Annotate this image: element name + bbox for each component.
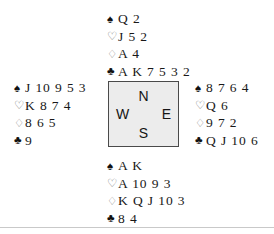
- east-hearts-line: ♡ Q 6: [195, 97, 259, 115]
- spade-icon: ♠: [195, 80, 206, 98]
- spade-icon: ♠: [107, 11, 118, 29]
- west-spades-cards: J 10 9 5 3: [25, 79, 87, 97]
- south-spades-cards: A K: [118, 157, 143, 175]
- heart-icon: ♡: [107, 28, 118, 46]
- south-hearts-line: ♡ A 10 9 3: [107, 175, 186, 193]
- east-diamonds-line: ♢ 9 7 2: [195, 114, 259, 132]
- south-hearts-cards: A 10 9 3: [118, 175, 171, 193]
- diamond-icon: ♢: [14, 115, 25, 133]
- north-hearts-line: ♡ J 5 2: [107, 28, 191, 46]
- club-icon: ♣: [195, 132, 206, 150]
- hand-south: ♠ A K ♡ A 10 9 3 ♢ K Q J 10 3 ♣ 8 4: [107, 157, 186, 227]
- heart-icon: ♡: [14, 97, 25, 115]
- club-icon: ♣: [107, 210, 118, 228]
- bridge-deal-diagram: ♠ Q 2 ♡ J 5 2 ♢ A 4 ♣ A K 7 5 3 2 ♠ J 10…: [0, 0, 274, 234]
- compass-label-west: W: [116, 106, 129, 122]
- north-clubs-line: ♣ A K 7 5 3 2: [107, 63, 191, 81]
- compass-label-south: S: [139, 125, 148, 141]
- hand-west: ♠ J 10 9 5 3 ♡ K 8 7 4 ♢ 8 6 5 ♣ 9: [14, 79, 87, 149]
- compass-box: N W E S: [108, 81, 179, 147]
- west-hearts-line: ♡ K 8 7 4: [14, 97, 87, 115]
- south-diamonds-cards: K Q J 10 3: [118, 192, 186, 210]
- west-hearts-cards: K 8 7 4: [25, 97, 71, 115]
- diamond-icon: ♢: [107, 46, 118, 64]
- bottom-divider: [0, 227, 274, 228]
- hand-north: ♠ Q 2 ♡ J 5 2 ♢ A 4 ♣ A K 7 5 3 2: [107, 10, 191, 80]
- north-hearts-cards: J 5 2: [118, 28, 148, 46]
- north-spades-line: ♠ Q 2: [107, 10, 191, 28]
- hand-east: ♠ 8 7 6 4 ♡ Q 6 ♢ 9 7 2 ♣ Q J 10 6: [195, 79, 259, 149]
- south-spades-line: ♠ A K: [107, 157, 186, 175]
- east-clubs-cards: Q J 10 6: [206, 132, 259, 150]
- east-clubs-line: ♣ Q J 10 6: [195, 132, 259, 150]
- east-hearts-cards: Q 6: [206, 97, 229, 115]
- heart-icon: ♡: [195, 97, 206, 115]
- north-diamonds-line: ♢ A 4: [107, 45, 191, 63]
- east-diamonds-cards: 9 7 2: [206, 114, 238, 132]
- west-clubs-line: ♣ 9: [14, 132, 87, 150]
- south-clubs-line: ♣ 8 4: [107, 210, 186, 228]
- heart-icon: ♡: [107, 175, 118, 193]
- diamond-icon: ♢: [195, 115, 206, 133]
- north-diamonds-cards: A 4: [118, 45, 140, 63]
- west-spades-line: ♠ J 10 9 5 3: [14, 79, 87, 97]
- spade-icon: ♠: [14, 80, 25, 98]
- north-spades-cards: Q 2: [118, 10, 141, 28]
- club-icon: ♣: [107, 63, 118, 81]
- compass-label-north: N: [138, 88, 148, 104]
- south-clubs-cards: 8 4: [118, 210, 138, 228]
- east-spades-line: ♠ 8 7 6 4: [195, 79, 259, 97]
- diamond-icon: ♢: [107, 193, 118, 211]
- compass-label-east: E: [162, 106, 171, 122]
- club-icon: ♣: [14, 132, 25, 150]
- south-diamonds-line: ♢ K Q J 10 3: [107, 192, 186, 210]
- east-spades-cards: 8 7 6 4: [206, 79, 249, 97]
- spade-icon: ♠: [107, 158, 118, 176]
- north-clubs-cards: A K 7 5 3 2: [118, 63, 191, 81]
- west-diamonds-cards: 8 6 5: [25, 114, 57, 132]
- west-clubs-cards: 9: [25, 132, 33, 150]
- west-diamonds-line: ♢ 8 6 5: [14, 114, 87, 132]
